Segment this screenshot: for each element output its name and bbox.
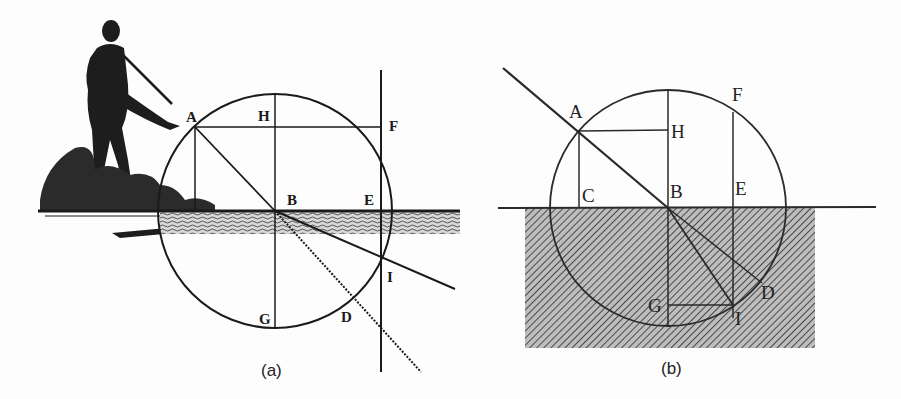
label-a-B: B (287, 192, 297, 208)
label-b-E: E (735, 178, 747, 199)
surface-line (498, 207, 876, 208)
label-a-G: G (259, 311, 271, 327)
label-a-I: I (387, 269, 393, 285)
water-surface-texture (160, 212, 460, 234)
woodcut-person-illustration (40, 20, 215, 238)
line-AH (579, 130, 668, 131)
label-b-B: B (670, 181, 683, 202)
label-a-D: D (341, 309, 352, 325)
label-b-H: H (671, 121, 685, 142)
label-b-D: D (761, 282, 775, 303)
refraction-diagrams: A H F B E I G D (a) A H F C B E D G I (b… (0, 0, 901, 399)
label-a-F: F (389, 118, 398, 134)
label-b-C: C (582, 185, 595, 206)
label-b-I: I (735, 308, 741, 329)
label-b-F: F (732, 84, 743, 105)
label-a-H: H (258, 108, 270, 124)
figure-b: A H F C B E D G I (b) (498, 68, 876, 378)
caption-b: (b) (661, 359, 682, 378)
incident-ray-AB (195, 127, 275, 211)
label-a-A: A (186, 109, 197, 125)
label-b-G: G (648, 295, 662, 316)
hatched-water-region (525, 208, 815, 348)
label-b-A: A (569, 101, 583, 122)
caption-a: (a) (261, 361, 282, 380)
label-a-E: E (364, 192, 374, 208)
figure-a: A H F B E I G D (a) (38, 20, 460, 380)
unrefracted-ray-BD (275, 211, 421, 372)
